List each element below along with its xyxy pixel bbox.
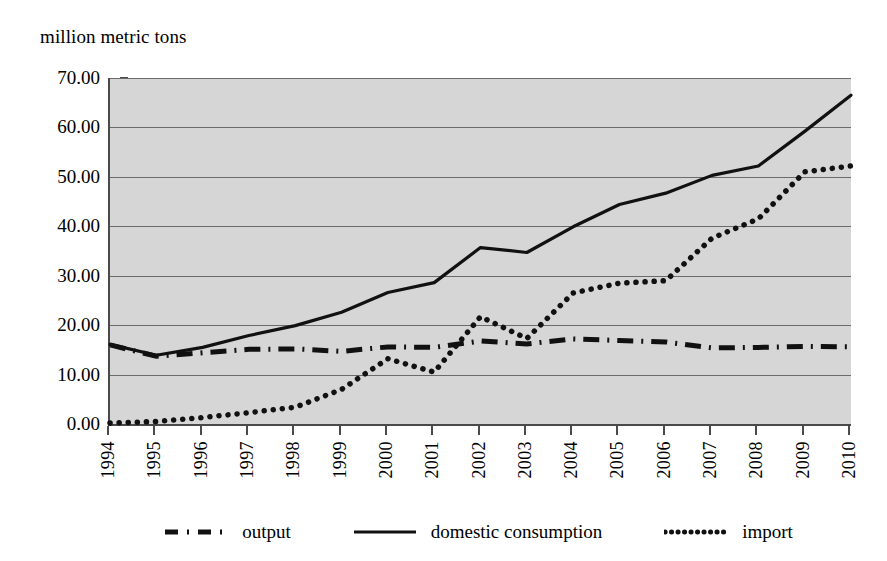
x-axis-tick-mark [616,426,618,435]
x-axis-tick-mark [848,426,850,435]
x-axis-tick-mark [663,426,665,435]
y-axis-tick-label: 60.00 [30,116,100,138]
x-axis-tick-mark [385,426,387,435]
y-axis-tick-label: 10.00 [30,364,100,386]
legend-swatch-solid-icon [353,525,417,539]
y-axis-tick-label: 70.00 [30,67,100,89]
x-axis-tick-label: 1994 [99,441,117,479]
x-axis-tick-mark [153,426,155,435]
line-chart: million metric tons 0.0010.0020.0030.004… [0,0,887,561]
x-axis-tick-label: 2003 [516,441,534,479]
x-axis-tick-label: 2004 [562,441,580,479]
legend-label: import [742,521,793,543]
plot-inner [110,78,851,424]
x-axis-tick-label: 1997 [238,441,256,479]
legend-label: domestic consumption [431,521,603,543]
x-axis-tick-mark [431,426,433,435]
x-axis-tick-mark [709,426,711,435]
y-axis-labels: 0.0010.0020.0030.0040.0050.0060.0070.00 [20,78,100,424]
y-axis-tick-label: 20.00 [30,314,100,336]
y-axis-tick-label: 40.00 [30,215,100,237]
y-axis-tick-label: 50.00 [30,166,100,188]
x-axis-tick-label: 2007 [701,441,719,479]
x-axis-tick-label: 1999 [331,441,349,479]
x-axis-tick-mark [107,426,109,435]
x-axis-tick-label: 1996 [192,441,210,479]
x-axis-tick-label: 1995 [145,441,163,479]
plot-area [108,78,851,426]
x-axis-tick-label: 2009 [794,441,812,479]
legend-label: output [242,521,291,543]
legend-swatch-dash-dot-icon [164,525,228,539]
x-axis-tick-mark [292,426,294,435]
x-axis-tick-label: 2005 [608,441,626,479]
x-axis-tick-mark [802,426,804,435]
y-axis-title: million metric tons [40,26,187,48]
x-axis-tick-mark [478,426,480,435]
x-axis-tick-mark [755,426,757,435]
x-axis-tick-label: 2010 [840,441,858,479]
gridline [110,424,851,425]
x-axis-tick-mark [246,426,248,435]
x-axis-tick-label: 2000 [377,441,395,479]
y-axis-tick-label: 30.00 [30,265,100,287]
series-line-import [110,166,851,423]
x-axis-tick-mark [200,426,202,435]
x-axis-tick-label: 2002 [470,441,488,479]
legend-entry-domestic-consumption[interactable]: domestic consumption [353,521,603,543]
x-axis-tick-label: 2001 [423,441,441,479]
legend-entry-import[interactable]: import [664,521,793,543]
legend-entry-output[interactable]: output [164,521,291,543]
x-axis-tick-mark [570,426,572,435]
x-axis-tick-label: 2006 [655,441,673,479]
x-axis-tick-label: 2008 [747,441,765,479]
y-axis-tick-label: 0.00 [30,413,100,435]
x-axis-tick-label: 1998 [284,441,302,479]
x-axis-tick-mark [339,426,341,435]
series-layer [110,78,851,424]
x-axis-tick-mark [524,426,526,435]
chart-legend: outputdomestic consumptionimport [108,514,849,550]
legend-swatch-dotted-icon [664,525,728,539]
